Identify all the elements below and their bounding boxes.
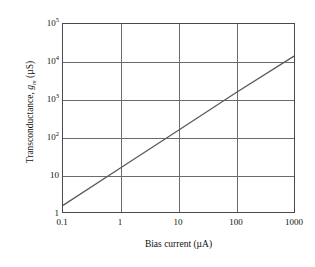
x-tick-label: 0.1 bbox=[56, 218, 67, 227]
chart-page: 105 104 103 102 10 1 0.1 1 10 100 1000 B… bbox=[0, 0, 315, 267]
x-tick-label: 10 bbox=[174, 218, 183, 227]
x-axis-ticks: 0.1 1 10 100 1000 bbox=[0, 218, 315, 232]
x-axis-title: Bias current (µA) bbox=[62, 239, 295, 249]
transconductance-line bbox=[63, 56, 294, 205]
data-line-svg bbox=[63, 24, 294, 212]
x-tick-label: 100 bbox=[229, 218, 243, 227]
y-tick-label: 105 bbox=[47, 19, 59, 28]
y-axis-title-text: Transconductance, bbox=[25, 90, 35, 164]
y-axis-title-symbol: g bbox=[25, 85, 35, 90]
plot-area bbox=[62, 23, 295, 213]
y-axis-title-units: (µS) bbox=[25, 61, 35, 80]
y-tick-label: 103 bbox=[47, 95, 59, 104]
x-tick-label: 1000 bbox=[285, 218, 303, 227]
y-axis-title: Transconductance, gm (µS) bbox=[25, 12, 35, 212]
y-tick-label: 104 bbox=[47, 57, 59, 66]
x-tick-label: 1 bbox=[118, 218, 123, 227]
y-axis-title-subscript: m bbox=[30, 80, 37, 85]
y-tick-label: 10 bbox=[50, 171, 59, 180]
y-tick-label: 102 bbox=[47, 133, 59, 142]
